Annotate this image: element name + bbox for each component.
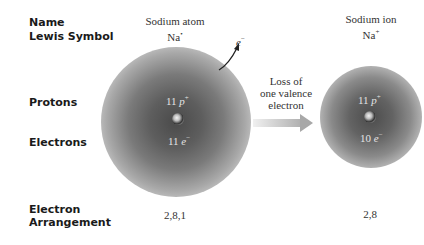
lost-electron-label: e− <box>236 33 245 48</box>
sodium-ion-protons-charge: + <box>377 93 381 101</box>
process-label-line2: one valence <box>253 87 319 99</box>
valence-electron-dot: • <box>180 30 182 38</box>
sodium-atom-electrons: 11 e− <box>168 134 190 147</box>
sodium-atom-protons-charge: + <box>185 94 189 102</box>
label-name: Name <box>29 16 65 29</box>
sodium-ion-lewis-symbol: Na+ <box>331 26 411 41</box>
process-label: Loss of one valence electron <box>253 75 319 111</box>
lost-electron-charge: − <box>241 35 245 43</box>
sodium-ion-protons: 11 p+ <box>358 93 381 106</box>
sodium-atom-symbol: Na <box>167 31 180 43</box>
process-label-line1: Loss of <box>253 75 319 87</box>
label-electron-arrangement-line1: Electron <box>29 203 111 216</box>
process-label-line3: electron <box>253 99 319 111</box>
sodium-atom-lewis-symbol: Na• <box>135 28 215 43</box>
sodium-ion-electrons-count: 10 <box>360 132 371 144</box>
process-arrow-shaft <box>253 119 301 127</box>
sodium-atom-nucleus-icon <box>172 113 184 125</box>
sodium-ion-nucleus-icon <box>364 111 376 123</box>
label-electron-arrangement: Electron Arrangement <box>29 203 111 229</box>
sodium-atom-electrons-charge: − <box>186 134 190 142</box>
sodium-ion-arrangement: 2,8 <box>350 208 390 220</box>
label-lewis-symbol: Lewis Symbol <box>29 30 114 43</box>
sodium-atom-name: Sodium atom <box>135 15 215 27</box>
label-electron-arrangement-line2: Arrangement <box>29 216 111 229</box>
sodium-atom-protons: 11 p+ <box>166 94 189 107</box>
sodium-atom-protons-count: 11 <box>166 95 177 107</box>
sodium-atom-arrangement: 2,8,1 <box>150 209 200 221</box>
sodium-ion-electrons-charge: − <box>379 131 383 139</box>
process-arrow-head-icon <box>300 114 313 132</box>
label-protons: Protons <box>29 96 77 109</box>
sodium-atom-electrons-count: 11 <box>168 135 179 147</box>
sodium-ion-electrons: 10 e− <box>360 131 383 144</box>
sodium-ion-protons-count: 11 <box>358 94 369 106</box>
label-electrons: Electrons <box>29 136 87 149</box>
sodium-ion-symbol: Na <box>363 29 376 41</box>
sodium-ion-charge-mark: + <box>375 28 379 36</box>
sodium-ion-name: Sodium ion <box>331 13 411 25</box>
